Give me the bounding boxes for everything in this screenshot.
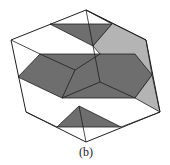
rhombohedron-diagram xyxy=(0,0,170,165)
bottom-dark-triangle xyxy=(57,106,121,127)
middle-dark-hexagon xyxy=(18,54,152,98)
edge-line xyxy=(11,40,40,54)
figure-caption: (b) xyxy=(0,145,170,160)
